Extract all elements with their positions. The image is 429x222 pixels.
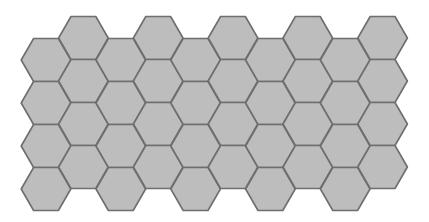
- hexagon-grid: [0, 0, 429, 222]
